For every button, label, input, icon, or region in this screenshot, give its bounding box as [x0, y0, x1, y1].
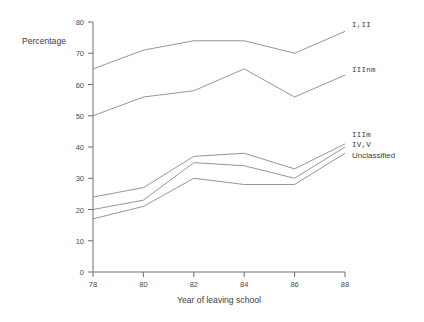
x-tick-label: 78 [89, 280, 97, 289]
x-tick-label: 88 [341, 280, 349, 289]
x-tick-label: 86 [290, 280, 298, 289]
y-tick-label: 70 [76, 49, 84, 58]
x-tick-label: 82 [190, 280, 198, 289]
series-label-iiinm: IIInm [352, 66, 376, 74]
x-tick-label: 84 [240, 280, 248, 289]
chart-canvas: Percentage 0 10 20 30 40 50 60 70 80 [0, 0, 424, 322]
y-tick-label: 20 [76, 206, 84, 215]
y-tick-label: 60 [76, 81, 84, 90]
y-axis-title: Percentage [22, 36, 66, 46]
series-label-unclassified: Unclassified [352, 151, 395, 160]
series-label-i-ii: I,II [352, 21, 371, 29]
y-tick-label: 40 [76, 143, 84, 152]
series-label-iiim: IIIm [352, 131, 371, 139]
y-tick-label: 50 [76, 112, 84, 121]
y-tick-label: 30 [76, 174, 84, 183]
series-line-iv-v [93, 147, 345, 210]
x-axis-ticks [93, 272, 345, 277]
series-label-iv-v: IV,V [352, 141, 371, 149]
y-tick-label: 10 [76, 237, 84, 246]
y-axis-ticks [88, 22, 93, 272]
series-lines [93, 31, 345, 219]
line-chart-figure: Percentage 0 10 20 30 40 50 60 70 80 [0, 0, 424, 322]
y-tick-label: 80 [76, 18, 84, 27]
series-line-i-ii [93, 31, 345, 69]
y-axis-tick-labels: 0 10 20 30 40 50 60 70 80 [76, 18, 84, 277]
x-axis-tick-labels: 78 80 82 84 86 88 [89, 280, 349, 289]
x-tick-label: 80 [139, 280, 147, 289]
y-tick-label: 0 [80, 268, 84, 277]
series-line-iiinm [93, 69, 345, 116]
x-axis-title: Year of leaving school [177, 295, 261, 305]
